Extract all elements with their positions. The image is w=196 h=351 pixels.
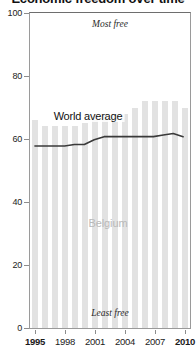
x-tick-mark-1998 (65, 330, 66, 334)
x-tick-label-2004: 2004 (115, 336, 135, 347)
series-label-world-average: World average (52, 110, 125, 122)
y-axis: 020406080100 (0, 0, 29, 341)
x-tick-label-2001: 2001 (85, 336, 105, 347)
line-series-world-average (30, 13, 190, 328)
series-label-belgium: Belgium (88, 217, 127, 229)
x-tick-label-2010: 2010 (175, 336, 195, 347)
y-tick-label-60: 60 (12, 134, 22, 144)
x-axis: 199519982001200420072010 (0, 330, 196, 351)
x-tick-mark-2001 (95, 330, 96, 334)
y-tick-label-40: 40 (12, 197, 22, 207)
y-tick-label-100: 100 (8, 8, 22, 18)
x-tick-label-2007: 2007 (145, 336, 165, 347)
page-title: Economic freedom over time (0, 0, 196, 4)
y-tick-label-80: 80 (12, 71, 22, 81)
annotation-least-free: Least free (91, 308, 128, 318)
plot-area: Most freeLeast freeWorld averageBelgium (29, 12, 191, 329)
annotation-most-free: Most free (92, 19, 128, 29)
x-tick-mark-2004 (125, 330, 126, 334)
economic-freedom-chart: Economic freedom over time 020406080100 … (0, 0, 196, 351)
x-tick-mark-1995 (35, 330, 36, 334)
x-tick-label-1995: 1995 (25, 336, 45, 347)
y-tick-label-20: 20 (12, 260, 22, 270)
x-tick-mark-2007 (155, 330, 156, 334)
x-tick-mark-2010 (185, 330, 186, 334)
x-tick-label-1998: 1998 (55, 336, 75, 347)
